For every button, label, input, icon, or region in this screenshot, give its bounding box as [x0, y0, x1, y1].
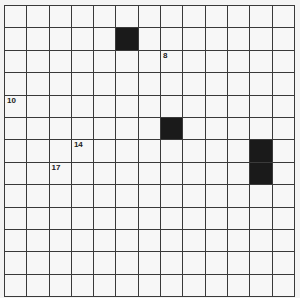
- grid-cell[interactable]: [50, 252, 72, 274]
- grid-cell[interactable]: [5, 185, 27, 207]
- grid-cell[interactable]: [139, 185, 161, 207]
- grid-cell[interactable]: [116, 230, 138, 252]
- grid-cell[interactable]: [27, 230, 49, 252]
- grid-cell[interactable]: [161, 185, 183, 207]
- grid-cell[interactable]: [50, 6, 72, 28]
- grid-cell[interactable]: [94, 252, 116, 274]
- grid-cell[interactable]: [116, 51, 138, 73]
- grid-cell[interactable]: [50, 51, 72, 73]
- grid-cell[interactable]: [161, 252, 183, 274]
- grid-cell[interactable]: [228, 275, 250, 297]
- grid-cell[interactable]: [72, 275, 94, 297]
- grid-cell[interactable]: 8: [161, 51, 183, 73]
- grid-cell[interactable]: [72, 51, 94, 73]
- grid-cell[interactable]: [139, 73, 161, 95]
- grid-cell[interactable]: 10: [5, 96, 27, 118]
- grid-cell[interactable]: [27, 73, 49, 95]
- grid-cell[interactable]: [5, 28, 27, 50]
- grid-cell[interactable]: [139, 163, 161, 185]
- grid-cell[interactable]: [183, 6, 205, 28]
- grid-cell[interactable]: [94, 96, 116, 118]
- grid-cell[interactable]: [183, 163, 205, 185]
- grid-cell[interactable]: [94, 185, 116, 207]
- grid-cell[interactable]: [116, 118, 138, 140]
- grid-cell[interactable]: [27, 51, 49, 73]
- grid-cell[interactable]: [273, 6, 295, 28]
- grid-cell[interactable]: [273, 163, 295, 185]
- grid-cell[interactable]: [5, 252, 27, 274]
- grid-cell[interactable]: [72, 73, 94, 95]
- grid-cell[interactable]: [273, 275, 295, 297]
- grid-cell[interactable]: [94, 6, 116, 28]
- grid-cell[interactable]: [50, 28, 72, 50]
- grid-cell[interactable]: [273, 96, 295, 118]
- grid-cell[interactable]: [250, 96, 272, 118]
- grid-cell[interactable]: [139, 118, 161, 140]
- grid-cell[interactable]: [50, 275, 72, 297]
- grid-cell[interactable]: [228, 163, 250, 185]
- grid-cell[interactable]: [161, 230, 183, 252]
- grid-cell[interactable]: [72, 252, 94, 274]
- grid-cell[interactable]: [228, 185, 250, 207]
- grid-cell[interactable]: [72, 28, 94, 50]
- grid-cell[interactable]: [161, 163, 183, 185]
- grid-cell[interactable]: 17: [50, 163, 72, 185]
- grid-cell[interactable]: [27, 6, 49, 28]
- grid-cell[interactable]: [5, 163, 27, 185]
- grid-cell[interactable]: [72, 6, 94, 28]
- grid-cell[interactable]: [116, 185, 138, 207]
- grid-cell[interactable]: [183, 185, 205, 207]
- grid-cell[interactable]: [94, 51, 116, 73]
- grid-cell[interactable]: [206, 51, 228, 73]
- grid-cell[interactable]: [161, 275, 183, 297]
- grid-cell[interactable]: [250, 51, 272, 73]
- grid-cell[interactable]: [273, 185, 295, 207]
- grid-cell[interactable]: [27, 275, 49, 297]
- grid-cell[interactable]: [273, 208, 295, 230]
- grid-cell[interactable]: [72, 230, 94, 252]
- grid-cell[interactable]: [72, 96, 94, 118]
- grid-cell[interactable]: 14: [72, 140, 94, 162]
- grid-cell[interactable]: [250, 73, 272, 95]
- grid-cell[interactable]: [228, 73, 250, 95]
- grid-cell[interactable]: [5, 6, 27, 28]
- grid-cell[interactable]: [161, 6, 183, 28]
- grid-cell[interactable]: [206, 185, 228, 207]
- grid-cell[interactable]: [50, 230, 72, 252]
- grid-cell[interactable]: [5, 118, 27, 140]
- grid-cell[interactable]: [139, 96, 161, 118]
- grid-cell[interactable]: [206, 118, 228, 140]
- grid-cell[interactable]: [116, 208, 138, 230]
- grid-cell[interactable]: [273, 51, 295, 73]
- grid-cell[interactable]: [139, 230, 161, 252]
- grid-cell[interactable]: [27, 28, 49, 50]
- grid-cell[interactable]: [50, 140, 72, 162]
- grid-cell[interactable]: [116, 96, 138, 118]
- grid-cell[interactable]: [94, 28, 116, 50]
- grid-cell[interactable]: [206, 275, 228, 297]
- grid-cell[interactable]: [161, 28, 183, 50]
- grid-cell[interactable]: [183, 96, 205, 118]
- grid-cell[interactable]: [94, 73, 116, 95]
- grid-cell[interactable]: [183, 51, 205, 73]
- grid-cell[interactable]: [206, 230, 228, 252]
- grid-cell[interactable]: [72, 118, 94, 140]
- grid-cell[interactable]: [139, 6, 161, 28]
- grid-cell[interactable]: [250, 28, 272, 50]
- grid-cell[interactable]: [250, 230, 272, 252]
- grid-cell[interactable]: [273, 230, 295, 252]
- grid-cell[interactable]: [116, 73, 138, 95]
- grid-cell[interactable]: [183, 73, 205, 95]
- grid-cell[interactable]: [139, 28, 161, 50]
- grid-cell[interactable]: [50, 96, 72, 118]
- grid-cell[interactable]: [250, 185, 272, 207]
- grid-cell[interactable]: [5, 51, 27, 73]
- grid-cell[interactable]: [161, 208, 183, 230]
- grid-cell[interactable]: [5, 275, 27, 297]
- grid-cell[interactable]: [183, 275, 205, 297]
- grid-cell[interactable]: [94, 163, 116, 185]
- grid-cell[interactable]: [228, 51, 250, 73]
- grid-cell[interactable]: [228, 230, 250, 252]
- grid-cell[interactable]: [250, 118, 272, 140]
- grid-cell[interactable]: [273, 118, 295, 140]
